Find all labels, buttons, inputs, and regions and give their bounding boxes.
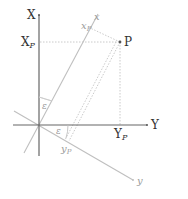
yp-label: YP: [113, 127, 128, 142]
epsilon-arc-bottom: [66, 125, 68, 138]
point-p: [119, 41, 122, 44]
x-rotated-projection-dotted: [88, 27, 120, 42]
y-axis-label: Y: [150, 118, 160, 132]
y-axis-arrow: [146, 124, 148, 126]
y-rotated-label: y: [136, 175, 143, 186]
x-axis-arrow: [38, 14, 40, 16]
y-rotated-p-label: yP: [60, 143, 72, 156]
coordinate-diagram: X Y x y P XP YP xP yP ε ε: [0, 0, 188, 199]
y-rotated-axis: [14, 111, 133, 180]
epsilon-label-top: ε: [42, 101, 47, 111]
x-rotated-axis: [24, 14, 98, 153]
x-axis-label: X: [27, 8, 36, 22]
construction-lines: [40, 27, 120, 141]
y-rotated-arrow: [132, 179, 134, 181]
y-rotated-projection-dotted: [69, 42, 120, 141]
x-rotated-p-label: xP: [81, 20, 92, 33]
xp-label: XP: [21, 35, 36, 50]
point-p-label: P: [124, 35, 132, 49]
epsilon-label-bottom: ε: [56, 126, 61, 136]
x-rotated-label: x: [94, 11, 100, 22]
